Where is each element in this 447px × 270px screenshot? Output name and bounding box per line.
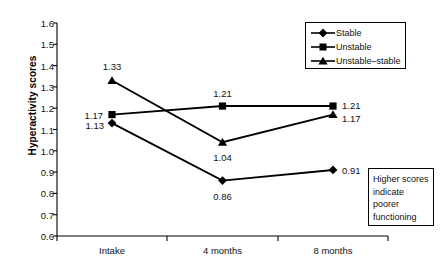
note-line: functioning	[373, 211, 433, 224]
legend-item-unstable[interactable]: Unstable	[310, 40, 405, 54]
data-point-label: 1.33	[103, 60, 122, 71]
hyperactivity-scores-line-chart: Hyperactivity scores 1.61.51.41.31.21.11…	[0, 0, 447, 270]
note-line: Higher scores	[373, 173, 433, 186]
legend-item-stable[interactable]: Stable	[310, 26, 405, 40]
data-point-label: 0.86	[213, 190, 232, 201]
x-tick-label: 8 months	[313, 245, 352, 256]
note-box: Higher scores indicate poorer functionin…	[368, 168, 434, 226]
data-point-label: 1.13	[86, 120, 105, 131]
square-marker-icon	[310, 40, 336, 54]
data-point-label: 0.91	[342, 164, 361, 175]
data-point-label: 1.17	[85, 109, 104, 120]
x-tick-label: 4 months	[203, 245, 242, 256]
data-point-label: 1.04	[213, 152, 232, 163]
legend-label-unstable-stable: Unstable–stable	[336, 54, 401, 68]
x-tick-label: Intake	[99, 245, 125, 256]
data-point-label: 1.21	[213, 88, 232, 99]
diamond-marker-icon	[310, 26, 336, 40]
legend: Stable Unstable Unstable–stable	[305, 22, 406, 69]
legend-item-unstable-stable[interactable]: Unstable–stable	[310, 54, 405, 68]
legend-label-stable: Stable	[336, 26, 362, 40]
legend-label-unstable: Unstable	[336, 40, 372, 54]
note-line: indicate	[373, 186, 433, 199]
data-point-label: 1.17	[342, 112, 361, 123]
note-line: poorer	[373, 198, 433, 211]
data-point-label: 1.21	[342, 100, 361, 111]
triangle-marker-icon	[310, 54, 336, 68]
